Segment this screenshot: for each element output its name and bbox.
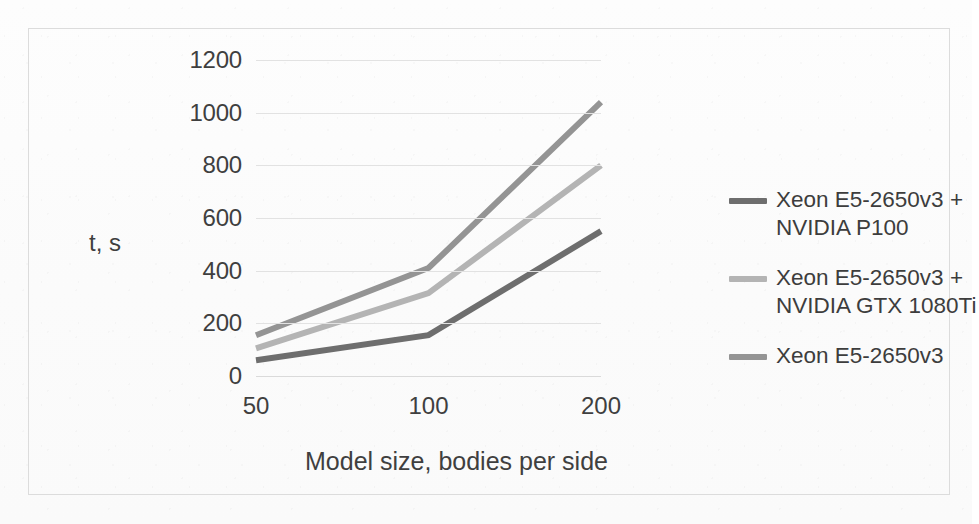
series-line xyxy=(256,165,601,348)
y-tick-label: 1000 xyxy=(189,99,242,127)
x-tick-label: 200 xyxy=(581,392,621,420)
gridline xyxy=(256,218,601,219)
legend-label: Xeon E5-2650v3 xyxy=(776,342,944,370)
gridline xyxy=(256,113,601,114)
gridline xyxy=(256,165,601,166)
legend-item[interactable]: Xeon E5-2650v3 xyxy=(729,342,979,370)
x-tick-label: 100 xyxy=(408,392,448,420)
legend-color-swatch-icon xyxy=(729,276,767,282)
y-axis-title: t, s xyxy=(89,229,121,257)
x-axis-title: Model size, bodies per side xyxy=(284,447,629,476)
gridline xyxy=(256,271,601,272)
legend-color-swatch-icon xyxy=(729,198,767,204)
chart-legend: Xeon E5-2650v3 + NVIDIA P100Xeon E5-2650… xyxy=(729,186,979,392)
chart-frame: t, s Model size, bodies per side 0200400… xyxy=(28,28,950,495)
y-tick-label: 1200 xyxy=(189,46,242,74)
y-tick-label: 600 xyxy=(203,204,242,232)
legend-item[interactable]: Xeon E5-2650v3 + NVIDIA P100 xyxy=(729,186,979,242)
legend-item[interactable]: Xeon E5-2650v3 + NVIDIA GTX 1080Ti xyxy=(729,264,979,320)
y-tick-label: 800 xyxy=(203,151,242,179)
gridline xyxy=(256,376,601,377)
legend-color-swatch-icon xyxy=(729,354,767,360)
y-tick-label: 0 xyxy=(229,362,242,390)
legend-label: Xeon E5-2650v3 + NVIDIA P100 xyxy=(776,186,963,242)
legend-label: Xeon E5-2650v3 + NVIDIA GTX 1080Ti xyxy=(776,264,977,320)
x-tick-label: 50 xyxy=(243,392,270,420)
plot-area: 02004006008001000120050100200 xyxy=(256,60,601,376)
gridline xyxy=(256,60,601,61)
y-tick-label: 400 xyxy=(203,257,242,285)
gridline xyxy=(256,323,601,324)
y-tick-label: 200 xyxy=(203,309,242,337)
